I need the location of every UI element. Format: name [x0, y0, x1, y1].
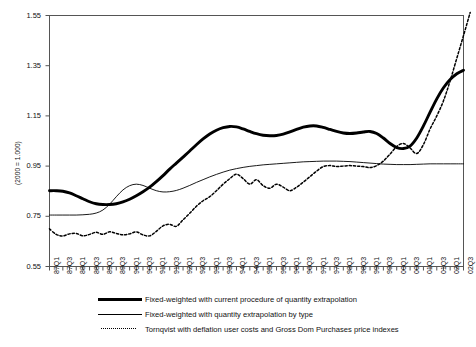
- x-tick-label: 02Q3: [467, 256, 474, 273]
- x-tick-label: 97Q1: [320, 256, 327, 273]
- x-tick-label: 87Q3: [66, 256, 73, 273]
- x-tick-label: 88Q3: [93, 256, 100, 273]
- x-tick-label: 97Q3: [333, 256, 340, 273]
- y-tick-label: 1.15: [13, 111, 41, 120]
- legend-item: Fixed-weighted with quantity extrapolati…: [98, 307, 313, 321]
- x-tick-label: 89Q3: [119, 256, 126, 273]
- x-tick-label: 87Q1: [53, 256, 60, 273]
- x-tick-label: 01Q1: [426, 256, 433, 273]
- x-tick-label: 00Q1: [400, 256, 407, 273]
- x-tick-label: 93Q1: [213, 256, 220, 273]
- y-tick-label: 0.95: [13, 161, 41, 170]
- x-tick-label: 91Q1: [159, 256, 166, 273]
- y-tick-label: 0.55: [13, 262, 41, 271]
- y-tick-label: 1.55: [13, 11, 41, 20]
- x-tick-label: 94Q1: [239, 256, 246, 273]
- x-tick-label: 96Q1: [293, 256, 300, 273]
- x-tick-label: 95Q1: [266, 256, 273, 273]
- x-tick-label: 90Q1: [133, 256, 140, 273]
- x-tick-label: 01Q3: [440, 256, 447, 273]
- x-tick-label: 89Q1: [106, 256, 113, 273]
- legend-item: Fixed-weighted with current procedure of…: [98, 292, 357, 306]
- x-tick-label: 95Q3: [280, 256, 287, 273]
- x-tick-label: 96Q3: [306, 256, 313, 273]
- x-tick-label: 98Q1: [346, 256, 353, 273]
- y-tick-label: 1.35: [13, 61, 41, 70]
- x-tick-label: 00Q3: [413, 256, 420, 273]
- x-tick-label: 98Q3: [360, 256, 367, 273]
- legend-line-sample: [98, 309, 142, 319]
- legend-label: Fixed-weighted with current procedure of…: [145, 295, 357, 304]
- x-tick-label: 99Q3: [386, 256, 393, 273]
- legend-label: Tornqvist with deflation user costs and …: [145, 325, 399, 334]
- x-tick-label: 88Q1: [79, 256, 86, 273]
- y-tick-label: 0.75: [13, 211, 41, 220]
- series-line: [50, 161, 464, 215]
- x-tick-label: 90Q3: [146, 256, 153, 273]
- series-layer: [50, 12, 471, 236]
- series-line: [50, 12, 471, 236]
- x-tick-label: 92Q1: [186, 256, 193, 273]
- x-tick-label: 93Q3: [226, 256, 233, 273]
- plot-frame: [50, 16, 464, 267]
- x-tick-label: 92Q3: [199, 256, 206, 273]
- legend-item: Tornqvist with deflation user costs and …: [98, 322, 399, 336]
- x-tick-label: 99Q1: [373, 256, 380, 273]
- x-tick-label: 02Q1: [453, 256, 460, 273]
- legend-label: Fixed-weighted with quantity extrapolati…: [145, 310, 313, 319]
- legend-line-sample: [98, 294, 142, 304]
- x-tick-label: 94Q3: [253, 256, 260, 273]
- legend-line-sample: [98, 324, 142, 334]
- x-tick-label: 91Q3: [173, 256, 180, 273]
- chart-figure: (2000 = 1.000) 0.550.750.951.151.351.55 …: [0, 0, 476, 347]
- series-line: [50, 70, 464, 204]
